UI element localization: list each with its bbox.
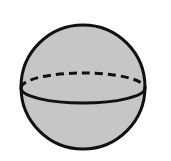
sphere-outline [21, 25, 145, 149]
sphere-diagram [0, 0, 171, 161]
sphere-figure [0, 0, 171, 161]
